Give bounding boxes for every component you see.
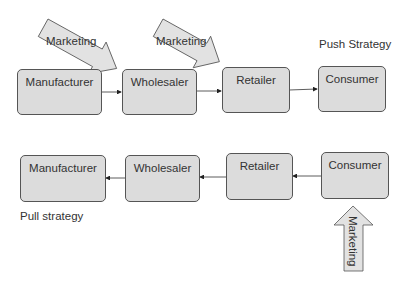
pull-node-wholesaler: Wholesaler [125, 155, 200, 202]
pull-marketing-arrow [334, 206, 373, 271]
push-connector-retailer-consumer [289, 89, 317, 90]
pull-node-consumer: Consumer [321, 152, 389, 199]
push-node-manufacturer: Manufacturer [17, 69, 102, 115]
pull-node-manufacturer: Manufacturer [20, 155, 106, 202]
push-node-wholesaler: Wholesaler [122, 69, 197, 115]
push-marketing-arrow-2 [149, 12, 228, 77]
pull-node-retailer: Retailer [226, 153, 293, 200]
push-marketing-label-1: Marketing [46, 35, 97, 47]
push-node-retailer: Retailer [222, 67, 290, 113]
pull-marketing-label: Marketing [347, 216, 359, 267]
pull-strategy-title: Pull strategy [20, 210, 83, 222]
push-node-consumer: Consumer [318, 66, 386, 112]
push-marketing-label-2: Marketing [156, 35, 207, 47]
push-strategy-title: Push Strategy [319, 38, 391, 50]
